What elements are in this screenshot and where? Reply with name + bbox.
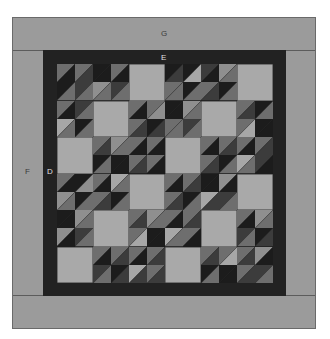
half-square-triangle-cell <box>75 210 93 228</box>
half-square-triangle-cell <box>129 247 147 265</box>
half-square-triangle-cell <box>183 64 201 82</box>
half-square-triangle-cell <box>201 247 219 265</box>
half-square-triangle-cell <box>183 192 201 210</box>
half-square-triangle-cell <box>201 137 219 155</box>
half-square-triangle-cell <box>237 247 255 265</box>
half-square-triangle-cell <box>201 64 219 82</box>
half-square-triangle-cell <box>57 82 75 100</box>
half-square-triangle-cell <box>237 155 255 173</box>
half-square-triangle-cell <box>147 210 165 228</box>
half-square-triangle-cell <box>57 192 75 210</box>
half-square-triangle-cell <box>57 174 75 192</box>
half-square-triangle-cell <box>147 265 165 283</box>
half-square-triangle-cell <box>129 137 147 155</box>
half-square-triangle-cell <box>237 101 255 119</box>
half-square-triangle-cell <box>237 228 255 246</box>
half-square-triangle-cell <box>165 119 183 137</box>
half-square-triangle-cell <box>129 119 147 137</box>
light-square-block <box>237 174 273 211</box>
half-square-triangle-cell <box>183 210 201 228</box>
half-square-triangle-cell <box>183 119 201 137</box>
half-square-triangle-cell <box>255 101 273 119</box>
half-square-triangle-cell <box>165 101 183 119</box>
half-square-triangle-cell <box>147 228 165 246</box>
half-square-triangle-cell <box>255 228 273 246</box>
half-square-triangle-cell <box>201 192 219 210</box>
half-square-triangle-cell <box>201 155 219 173</box>
half-square-triangle-cell <box>75 82 93 100</box>
light-square-block <box>201 210 237 247</box>
half-square-triangle-cell <box>57 119 75 137</box>
half-square-triangle-cell <box>237 265 255 283</box>
label-g: G <box>161 29 167 38</box>
half-square-triangle-cell <box>129 101 147 119</box>
half-square-triangle-cell <box>57 101 75 119</box>
half-square-triangle-cell <box>93 137 111 155</box>
half-square-triangle-cell <box>255 265 273 283</box>
half-square-triangle-cell <box>147 119 165 137</box>
label-d: D <box>47 167 53 176</box>
half-square-triangle-cell <box>219 155 237 173</box>
half-square-triangle-cell <box>201 174 219 192</box>
half-square-triangle-cell <box>111 174 129 192</box>
half-square-triangle-cell <box>111 64 129 82</box>
half-square-triangle-cell <box>129 265 147 283</box>
half-square-triangle-cell <box>237 210 255 228</box>
half-square-triangle-cell <box>219 82 237 100</box>
half-square-triangle-cell <box>129 210 147 228</box>
half-square-triangle-cell <box>165 174 183 192</box>
half-square-triangle-cell <box>111 155 129 173</box>
half-square-triangle-cell <box>75 119 93 137</box>
label-f: F <box>25 167 30 176</box>
half-square-triangle-cell <box>219 192 237 210</box>
half-square-triangle-cell <box>111 247 129 265</box>
half-square-triangle-cell <box>57 228 75 246</box>
half-square-triangle-cell <box>75 64 93 82</box>
half-square-triangle-cell <box>111 82 129 100</box>
half-square-triangle-cell <box>237 137 255 155</box>
half-square-triangle-cell <box>219 64 237 82</box>
half-square-triangle-cell <box>93 265 111 283</box>
half-square-triangle-cell <box>255 210 273 228</box>
half-square-triangle-cell <box>237 119 255 137</box>
half-square-triangle-cell <box>129 155 147 173</box>
label-e: E <box>161 53 166 62</box>
half-square-triangle-cell <box>219 247 237 265</box>
half-square-triangle-cell <box>165 82 183 100</box>
light-square-block <box>129 64 165 101</box>
half-square-triangle-cell <box>75 192 93 210</box>
light-square-block <box>93 210 129 247</box>
light-square-block <box>57 247 93 284</box>
half-square-triangle-cell <box>183 101 201 119</box>
half-square-triangle-cell <box>147 155 165 173</box>
light-square-block <box>237 64 273 101</box>
half-square-triangle-cell <box>183 82 201 100</box>
half-square-triangle-cell <box>93 174 111 192</box>
half-square-triangle-cell <box>165 192 183 210</box>
quilt-center-grid <box>57 64 273 283</box>
half-square-triangle-cell <box>93 82 111 100</box>
half-square-triangle-cell <box>93 64 111 82</box>
half-square-triangle-cell <box>219 137 237 155</box>
half-square-triangle-cell <box>201 82 219 100</box>
half-square-triangle-cell <box>255 155 273 173</box>
half-square-triangle-cell <box>147 101 165 119</box>
half-square-triangle-cell <box>165 210 183 228</box>
half-square-triangle-cell <box>111 137 129 155</box>
half-square-triangle-cell <box>111 265 129 283</box>
half-square-triangle-cell <box>255 247 273 265</box>
border-f-right <box>285 51 315 295</box>
half-square-triangle-cell <box>93 192 111 210</box>
half-square-triangle-cell <box>147 137 165 155</box>
half-square-triangle-cell <box>183 174 201 192</box>
half-square-triangle-cell <box>147 247 165 265</box>
half-square-triangle-cell <box>75 228 93 246</box>
half-square-triangle-cell <box>165 64 183 82</box>
half-square-triangle-cell <box>183 228 201 246</box>
light-square-block <box>129 174 165 211</box>
half-square-triangle-cell <box>255 119 273 137</box>
light-square-block <box>165 137 201 174</box>
half-square-triangle-cell <box>75 174 93 192</box>
border-g-bottom <box>13 295 315 328</box>
half-square-triangle-cell <box>93 155 111 173</box>
